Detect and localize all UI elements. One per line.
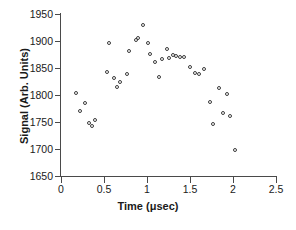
data-point: [90, 124, 94, 128]
data-point: [83, 101, 87, 105]
plot-data-area: [61, 14, 276, 176]
data-point: [165, 47, 169, 51]
data-point: [93, 118, 97, 122]
data-point: [225, 92, 229, 96]
y-tick-label: 1900: [17, 36, 53, 46]
y-tick-label-text: 1750: [21, 117, 53, 127]
data-point: [217, 86, 221, 90]
y-tick-label-text: 1900: [21, 36, 53, 46]
data-point: [115, 85, 119, 89]
data-point: [146, 41, 150, 45]
y-tick-label: 1800: [17, 90, 53, 100]
y-tick-label: 1950: [17, 9, 53, 19]
data-point: [202, 67, 206, 71]
data-point: [125, 72, 129, 76]
data-point: [78, 109, 82, 113]
scatter-plot-figure: Signal (Arb. Units) 16501700175018001850…: [0, 0, 296, 230]
x-tick-label: 2: [218, 184, 248, 195]
data-point: [74, 91, 78, 95]
data-point: [221, 111, 225, 115]
x-axis-line: [60, 176, 277, 177]
y-tick-label-text: 1950: [21, 9, 53, 19]
data-point: [197, 72, 201, 76]
y-tick-label: 1850: [17, 63, 53, 73]
x-tick-label: 1.5: [175, 184, 205, 195]
x-tick-label: 2.5: [261, 184, 291, 195]
y-tick-label-text: 1850: [21, 63, 53, 73]
data-point: [208, 100, 212, 104]
data-point: [136, 36, 140, 40]
x-tick-label: 0: [46, 184, 76, 195]
data-point: [118, 80, 122, 84]
data-point: [148, 52, 152, 56]
y-tick-label-text: 1700: [21, 144, 53, 154]
data-point: [127, 49, 131, 53]
data-point: [228, 114, 232, 118]
x-axis-label: Time (μsec): [0, 200, 296, 212]
y-tick-label-text: 1800: [21, 90, 53, 100]
y-tick-label: 1650: [17, 171, 53, 181]
data-point: [182, 55, 186, 59]
data-point: [211, 122, 215, 126]
data-point: [112, 76, 116, 80]
data-point: [160, 57, 164, 61]
data-point: [157, 75, 161, 79]
x-tick-label: 1: [132, 184, 162, 195]
y-tick-label-text: 1650: [21, 171, 53, 181]
y-tick-label: 1700: [17, 144, 53, 154]
x-tick-label: 0.5: [89, 184, 119, 195]
y-tick-label: 1750: [17, 117, 53, 127]
data-point: [153, 60, 157, 64]
data-point: [105, 70, 109, 74]
data-point: [107, 41, 111, 45]
data-point: [233, 148, 237, 152]
data-point: [141, 23, 145, 27]
data-point: [188, 65, 192, 69]
